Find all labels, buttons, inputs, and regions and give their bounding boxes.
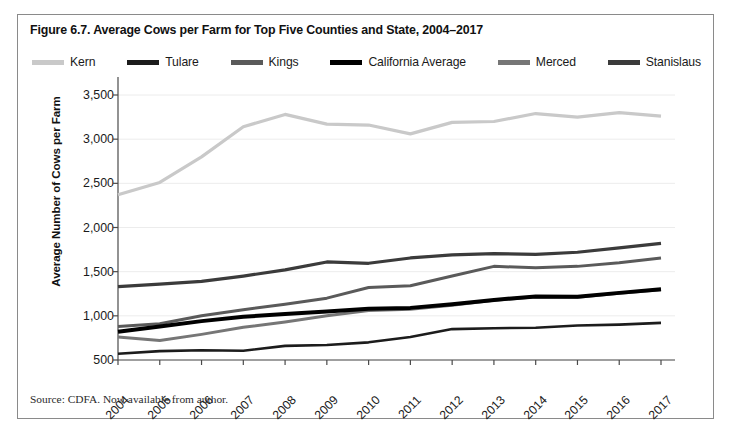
legend-swatch-icon [32, 60, 64, 65]
line-chart-svg [18, 77, 713, 387]
x-axis-tick-label: 2010 [346, 393, 383, 430]
x-axis-tick-label: 2015 [555, 393, 592, 430]
chart-legend: KernTulareKingsCalifornia AverageMercedS… [26, 51, 707, 73]
legend-swatch-icon [231, 60, 263, 65]
source-note: Source: CDFA. Now available from author. [30, 393, 228, 405]
x-axis-tick-label: 2008 [262, 393, 299, 430]
series-line-kern [118, 113, 661, 195]
x-axis-tick-label: 2011 [388, 393, 425, 430]
legend-swatch-icon [127, 60, 159, 65]
legend-item[interactable]: Stanislaus [608, 55, 701, 69]
legend-item-label: Stanislaus [646, 55, 701, 69]
legend-item-label: Kings [269, 55, 299, 69]
legend-item[interactable]: Merced [498, 55, 576, 69]
legend-item-label: Merced [536, 55, 576, 69]
x-axis-tick-label: 2009 [304, 393, 341, 430]
legend-item[interactable]: California Average [330, 55, 466, 69]
x-axis-tick-label: 2016 [596, 393, 633, 430]
legend-swatch-icon [498, 60, 530, 65]
x-axis-tick-label: 2012 [429, 393, 466, 430]
x-axis-tick-label: 2014 [513, 393, 550, 430]
x-axis-tick-label: 2017 [638, 393, 675, 430]
figure-title: Figure 6.7. Average Cows per Farm for To… [30, 23, 483, 37]
legend-item[interactable]: Kings [231, 55, 299, 69]
legend-item[interactable]: Kern [32, 55, 95, 69]
legend-item-label: Kern [70, 55, 95, 69]
legend-item-label: Tulare [165, 55, 199, 69]
figure-container: Figure 6.7. Average Cows per Farm for To… [17, 14, 714, 419]
plot-area: Average Number of Cows per Farm 5001,000… [18, 77, 713, 387]
legend-swatch-icon [608, 60, 640, 65]
x-axis-tick-label: 2013 [471, 393, 508, 430]
series-line-tulare [118, 323, 661, 354]
legend-swatch-icon [330, 60, 362, 65]
legend-item-label: California Average [368, 55, 466, 69]
legend-item[interactable]: Tulare [127, 55, 199, 69]
